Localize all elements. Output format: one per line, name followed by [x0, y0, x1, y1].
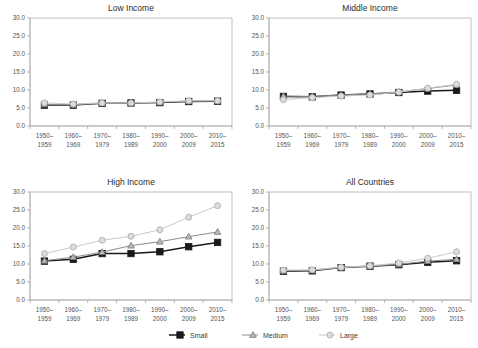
data-point-marker: [99, 237, 105, 243]
x-tick-label: 2009: [182, 315, 197, 322]
series-large: [280, 81, 459, 102]
x-tick-label: 1969: [66, 141, 81, 148]
panel-title: Low Income: [108, 3, 154, 13]
x-tick-label: 1959: [276, 141, 291, 148]
x-tick-label: 1989: [363, 315, 378, 322]
x-tick-label: 2010–: [448, 306, 466, 313]
legend-label: Large: [340, 332, 358, 340]
x-tick-label: 2000: [153, 315, 168, 322]
data-point-marker: [425, 255, 431, 261]
x-tick-label: 1969: [305, 141, 320, 148]
x-tick-label: 1979: [334, 315, 349, 322]
x-tick-label: 2010–: [209, 132, 227, 139]
x-tick-label: 1990–: [151, 306, 169, 313]
data-point-marker: [396, 89, 402, 95]
x-tick-label: 2000: [392, 315, 407, 322]
panel-title: Middle Income: [342, 3, 398, 13]
panel-title: All Countries: [346, 177, 394, 187]
y-tick-label: 5.0: [16, 278, 25, 285]
x-tick-label: 2000: [392, 141, 407, 148]
data-point-marker: [128, 250, 134, 256]
chart-panel-high-income: High Income0.05.010.015.020.025.030.0195…: [0, 174, 239, 344]
y-tick-label: 5.0: [16, 104, 25, 111]
chart-panel-all-countries: All Countries0.05.010.015.020.025.030.01…: [239, 174, 478, 344]
y-tick-label: 5.0: [255, 104, 264, 111]
legend-entry-large[interactable]: Large: [319, 332, 358, 340]
y-tick-label: 15.0: [13, 242, 26, 249]
x-tick-label: 1970–: [332, 306, 350, 313]
data-point-marker: [128, 100, 134, 106]
x-tick-label: 2009: [421, 315, 436, 322]
y-tick-label: 20.0: [13, 50, 26, 57]
x-tick-label: 1989: [363, 141, 378, 148]
data-point-marker: [99, 100, 105, 106]
data-point-marker: [215, 203, 221, 209]
y-tick-label: 30.0: [252, 14, 265, 21]
x-tick-label: 1970–: [332, 132, 350, 139]
x-tick-label: 1960–: [65, 306, 83, 313]
y-tick-label: 25.0: [13, 32, 26, 39]
data-point-marker: [70, 244, 76, 250]
chart-panel-low-income: Low Income0.05.010.015.020.025.030.01950…: [0, 0, 239, 170]
plot-area-background: [269, 192, 471, 300]
y-tick-label: 15.0: [252, 68, 265, 75]
x-tick-label: 1970–: [93, 132, 111, 139]
x-tick-label: 2000–: [180, 132, 198, 139]
data-point-marker: [214, 239, 220, 245]
legend-entry-small[interactable]: Small: [169, 332, 208, 339]
x-tick-label: 1990–: [151, 132, 169, 139]
x-tick-label: 2015: [211, 141, 226, 148]
x-tick-label: 2010–: [448, 132, 466, 139]
data-point-marker: [454, 249, 460, 255]
x-tick-label: 2000–: [419, 306, 437, 313]
y-tick-label: 20.0: [252, 50, 265, 57]
data-point-marker: [128, 233, 134, 239]
y-tick-label: 20.0: [252, 224, 265, 231]
y-tick-label: 15.0: [13, 68, 26, 75]
data-point-marker: [367, 263, 373, 269]
panel-title: High Income: [107, 177, 155, 187]
x-tick-label: 1960–: [304, 306, 322, 313]
x-tick-label: 1980–: [122, 132, 140, 139]
data-point-marker: [453, 87, 459, 93]
y-tick-label: 5.0: [255, 278, 264, 285]
x-tick-label: 2000: [153, 141, 168, 148]
legend-entry-medium[interactable]: Medium: [242, 332, 288, 339]
y-tick-label: 15.0: [252, 242, 265, 249]
x-tick-label: 2015: [450, 315, 465, 322]
x-tick-label: 1950–: [36, 306, 54, 313]
data-point-marker: [41, 251, 47, 257]
data-point-marker: [215, 98, 221, 104]
x-tick-label: 1950–: [36, 132, 54, 139]
y-tick-label: 0.0: [255, 296, 264, 303]
chart-svg-middle-income: Middle Income0.05.010.015.020.025.030.01…: [239, 0, 478, 170]
y-tick-label: 25.0: [252, 32, 265, 39]
x-tick-label: 2009: [182, 141, 197, 148]
x-tick-label: 1950–: [275, 132, 293, 139]
filled-square-marker: [177, 332, 183, 338]
data-point-marker: [396, 260, 402, 266]
legend-label: Small: [190, 332, 208, 339]
x-tick-label: 1959: [276, 315, 291, 322]
x-tick-label: 1979: [334, 141, 349, 148]
x-tick-label: 1960–: [304, 132, 322, 139]
data-point-marker: [157, 99, 163, 105]
x-tick-label: 1959: [37, 141, 52, 148]
y-tick-label: 30.0: [13, 14, 26, 21]
data-point-marker: [338, 264, 344, 270]
series-large: [41, 203, 220, 257]
x-tick-label: 1990–: [390, 306, 408, 313]
data-point-marker: [186, 244, 192, 250]
x-tick-label: 1969: [66, 315, 81, 322]
data-point-marker: [280, 97, 286, 103]
figure-panel-grid: Low Income0.05.010.015.020.025.030.01950…: [0, 0, 478, 348]
x-tick-label: 2015: [211, 315, 226, 322]
chart-legend: SmallMediumLarge: [0, 326, 478, 348]
data-point-marker: [70, 101, 76, 107]
x-tick-label: 1979: [95, 315, 110, 322]
chart-svg-high-income: High Income0.05.010.015.020.025.030.0195…: [0, 174, 239, 344]
data-point-marker: [280, 267, 286, 273]
x-tick-label: 1969: [305, 315, 320, 322]
data-point-marker: [425, 85, 431, 91]
x-tick-label: 2015: [450, 141, 465, 148]
